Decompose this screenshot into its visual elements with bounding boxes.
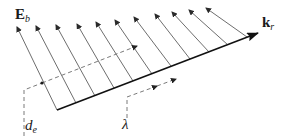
field-vector-label: Eb	[15, 6, 30, 24]
wave-vector-label: kr	[262, 14, 274, 32]
field-vector-subscript: b	[25, 13, 30, 24]
distance-origin-dot-icon	[40, 81, 43, 84]
field-arrow-icon	[172, 12, 209, 52]
wavelength-dashed-arrow-icon	[157, 79, 176, 86]
field-arrow-icon	[36, 26, 76, 103]
wavelength-symbol: λ	[122, 116, 129, 132]
field-arrow-icon	[134, 17, 171, 66]
field-arrow-icon	[96, 22, 133, 81]
wave-vector-arrow-icon	[57, 33, 258, 110]
field-arrow-icon	[17, 27, 57, 110]
field-vectors	[17, 8, 247, 110]
field-arrow-icon	[77, 24, 114, 88]
wave-diagram	[0, 0, 287, 139]
field-arrow-icon	[189, 10, 228, 45]
field-vector-symbol: E	[15, 6, 25, 22]
distance-subscript: e	[33, 124, 37, 135]
distance-label: de	[25, 117, 37, 135]
wave-vector-subscript: r	[270, 21, 274, 32]
field-arrow-icon	[56, 25, 95, 96]
field-arrow-icon	[206, 8, 247, 37]
distance-symbol: d	[25, 117, 33, 133]
diagram-canvas: Eb kr de λ	[0, 0, 287, 139]
wavelength-label: λ	[122, 116, 129, 132]
wavelength-dashed-line	[127, 86, 157, 118]
wavelength-guide	[127, 79, 176, 118]
